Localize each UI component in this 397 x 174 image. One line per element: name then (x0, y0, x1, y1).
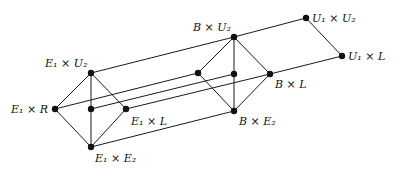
node-e1-r (52, 106, 58, 112)
label-e1-u2: E₁ × U₂ (44, 57, 87, 70)
edge-e1c-bc (91, 74, 234, 109)
label-b-l: B × L (274, 78, 307, 91)
node-b-r (195, 70, 201, 76)
node-e1-center (88, 106, 94, 112)
edge-e1l-e1e2 (91, 109, 126, 147)
edge-bu2-u1u2 (234, 18, 306, 37)
edge-e1u2-bu2 (91, 37, 234, 73)
node-b-l (267, 71, 273, 77)
node-e1-u2 (88, 70, 94, 76)
lattice-diagram: E₁ × U₂ E₁ × R E₁ × L E₁ × E₂ B × U₂ B ×… (0, 0, 397, 174)
label-e1-e2: E₁ × E₂ (94, 152, 136, 165)
node-b-e2 (231, 108, 237, 114)
edge-bu2-bl (234, 37, 270, 74)
label-b-e2: B × E₂ (238, 115, 276, 128)
node-u1-l (339, 53, 345, 59)
labels: E₁ × U₂ E₁ × R E₁ × L E₁ × E₂ B × U₂ B ×… (10, 12, 385, 165)
edge-bl-be2 (234, 74, 270, 111)
label-e1-r: E₁ × R (10, 103, 48, 116)
edge-bu2-br (198, 37, 234, 73)
label-u1-u2: U₁ × U₂ (312, 12, 356, 25)
edge-e1r-br (55, 73, 198, 109)
label-u1-l: U₁ × L (348, 50, 385, 63)
node-b-u2 (231, 34, 237, 40)
edge-e1r-e1e2 (55, 109, 91, 147)
edge-e1u2-e1r (55, 73, 91, 109)
edge-e1l-bl (126, 74, 270, 109)
label-b-u2: B × U₂ (192, 21, 231, 34)
node-e1-e2 (88, 144, 94, 150)
edge-e1u2-e1l (91, 73, 126, 109)
node-u1-u2 (303, 15, 309, 21)
node-e1-l (123, 106, 129, 112)
edge-bl-u1l (270, 56, 342, 74)
node-b-center (231, 71, 237, 77)
label-e1-l: E₁ × L (130, 115, 167, 128)
